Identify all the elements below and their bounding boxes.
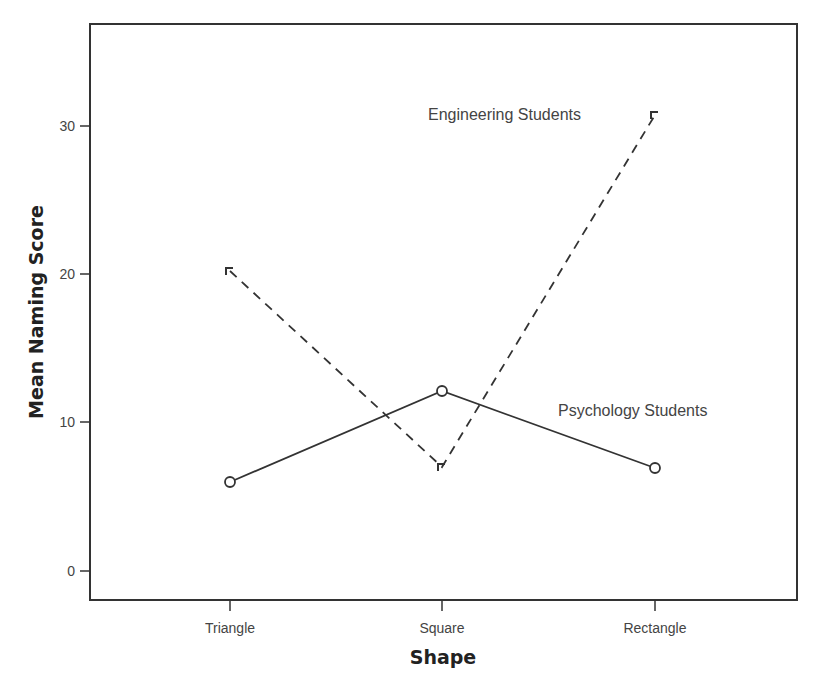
series-label-psychology: Psychology Students [558,402,707,419]
x-tick-label: Triangle [205,620,255,636]
circle-marker-icon [437,386,447,396]
circle-marker-icon [225,477,235,487]
y-tick-label: 20 [59,266,75,282]
x-tick-label: Square [419,620,464,636]
line-chart: 0 10 20 30 Mean Naming Score Triangle Sq… [0,0,816,687]
y-tick-label: 0 [67,563,75,579]
y-tick-label: 10 [59,414,75,430]
y-tick-label: 30 [59,118,75,134]
series-psychology: Psychology Students [225,386,707,487]
x-axis-title: Shape [410,646,477,668]
x-tick-label: Rectangle [623,620,686,636]
square-marker-icon [651,112,658,119]
y-axis: 0 10 20 30 Mean Naming Score [25,118,90,579]
y-axis-title: Mean Naming Score [25,205,47,419]
series-label-engineering: Engineering Students [428,106,581,123]
circle-marker-icon [650,463,660,473]
x-axis: Triangle Square Rectangle Shape [205,600,687,668]
